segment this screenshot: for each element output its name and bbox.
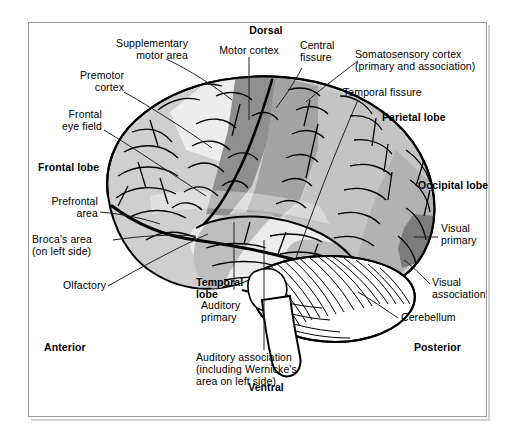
callout-auditory-association: Auditory association (including Wernicke… bbox=[196, 352, 297, 387]
callout-cerebellum: Cerebellum bbox=[401, 312, 456, 324]
callout-somatosensory-cortex: Somatosensory cortex (primary and associ… bbox=[355, 49, 475, 73]
lobe-label-temporal: Temporal lobe bbox=[196, 277, 243, 301]
callout-visual-primary: Visual primary bbox=[441, 223, 477, 247]
orientation-label-posterior: Posterior bbox=[414, 342, 461, 354]
callout-premotor-cortex: Premotor cortex bbox=[36, 70, 124, 94]
cerebrum-body bbox=[107, 74, 436, 297]
lobe-label-frontal: Frontal lobe bbox=[38, 162, 99, 174]
figure-canvas: Dorsal Ventral Anterior Posterior Fronta… bbox=[0, 0, 515, 445]
orientation-label-anterior: Anterior bbox=[44, 342, 86, 354]
callout-frontal-eye-field: Frontal eye field bbox=[30, 109, 102, 133]
lobe-label-parietal: Parietal lobe bbox=[382, 112, 446, 124]
orientation-label-dorsal: Dorsal bbox=[216, 25, 316, 37]
callout-visual-association: Visual association bbox=[432, 277, 486, 301]
lobe-label-occipital: Occipital lobe bbox=[418, 180, 488, 192]
callout-brocas-area: Broca's area (on left side) bbox=[32, 234, 92, 258]
callout-central-fissure: Central fissure bbox=[300, 40, 335, 64]
callout-supplementary-motor-area: Supplementary motor area bbox=[88, 38, 188, 62]
callout-motor-cortex: Motor cortex bbox=[208, 45, 290, 57]
callout-auditory-primary: Auditory primary bbox=[201, 300, 240, 324]
callout-temporal-fissure: Temporal fissure bbox=[343, 87, 422, 99]
callout-prefrontal-area: Prefrontal area bbox=[28, 196, 98, 220]
callout-olfactory: Olfactory bbox=[32, 280, 106, 292]
